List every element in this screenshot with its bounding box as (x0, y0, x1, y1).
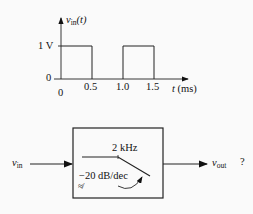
y-tick-0: 0 (46, 73, 51, 84)
x-origin-label: 0 (58, 88, 63, 99)
x-tick-1-5: 1.5 (146, 82, 159, 93)
not-approx-icon: ≉ (78, 182, 83, 191)
diagram-canvas (0, 0, 253, 214)
output-label: vout (212, 158, 226, 170)
y-axis-label: vin(t) (66, 15, 86, 27)
corner-frequency-label: 2 kHz (112, 143, 137, 154)
pulse-waveform (61, 46, 154, 79)
x-tick-0-5: 0.5 (84, 82, 97, 93)
y-tick-1v: 1 V (38, 41, 53, 52)
waveform-axes (54, 18, 188, 79)
x-axis-label: t (ms) (172, 84, 197, 95)
filter-block (30, 128, 207, 198)
input-label: vin (12, 158, 23, 170)
x-tick-1-0: 1.0 (116, 82, 129, 93)
rolloff-label: −20 dB/dec (79, 171, 128, 182)
question-mark: ? (240, 157, 245, 168)
